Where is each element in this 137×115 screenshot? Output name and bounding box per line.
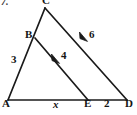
vertex-label-c: C bbox=[42, 0, 50, 6]
length-label-ab: 3 bbox=[11, 54, 17, 65]
arrow-mark-CD bbox=[80, 32, 88, 41]
length-label-be: 4 bbox=[61, 50, 67, 61]
vertex-label-b: B bbox=[25, 29, 32, 40]
length-label-cd: 6 bbox=[89, 29, 95, 40]
problem-number: 7. bbox=[1, 0, 9, 7]
arrow-mark-BE bbox=[52, 54, 60, 63]
geometry-diagram-svg bbox=[0, 0, 137, 115]
length-label-ae-variable: x bbox=[53, 99, 59, 110]
segment-CD-line bbox=[45, 8, 127, 100]
geometry-figure-screenshot: 7. C B A E D 3 4 6 x 2 bbox=[0, 0, 137, 115]
vertex-label-e: E bbox=[84, 98, 91, 109]
vertex-label-a: A bbox=[2, 98, 10, 109]
vertex-label-d: D bbox=[125, 98, 133, 109]
length-label-ed: 2 bbox=[104, 98, 110, 109]
